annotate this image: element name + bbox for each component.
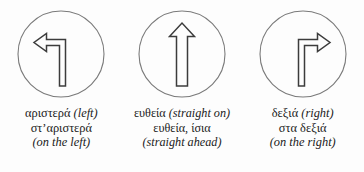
straight-ahead-arrow-icon [170,23,195,86]
direction-signs-figure: αριστερά (left) στ’αριστερά (on the left… [0,0,364,172]
caption-line-1: δεξιά (right) [270,106,336,121]
straight-ahead-sign [138,10,226,98]
caption-line-3: (on the right) [270,135,336,150]
sign-column-left: αριστερά (left) στ’αριστερά (on the left… [1,0,122,150]
sign-column-middle: ευθεία (straight on) ευθεία, ίσια (strai… [122,0,243,150]
sign-circle-outline [18,11,104,97]
sign-circle-outline [260,11,346,97]
caption-left: αριστερά (left) στ’αριστερά (on the left… [25,106,98,150]
sign-column-right: δεξιά (right) στα δεξιά (on the right) [242,0,363,150]
caption-line-3: (straight ahead) [134,135,230,150]
caption-line-2: στα δεξιά [270,121,336,136]
caption-middle: ευθεία (straight on) ευθεία, ίσια (strai… [134,106,230,150]
caption-right: δεξιά (right) στα δεξιά (on the right) [270,106,336,150]
turn-left-sign [17,10,105,98]
caption-line-2: ευθεία, ίσια [134,121,230,136]
turn-left-arrow-icon [34,34,66,87]
turn-right-arrow-icon [298,34,330,87]
sign-columns: αριστερά (left) στ’αριστερά (on the left… [0,0,364,172]
caption-line-1: ευθεία (straight on) [134,106,230,121]
caption-line-3: (on the left) [25,135,98,150]
turn-right-sign [259,10,347,98]
caption-line-1: αριστερά (left) [25,106,98,121]
caption-line-2: στ’αριστερά [25,121,98,136]
